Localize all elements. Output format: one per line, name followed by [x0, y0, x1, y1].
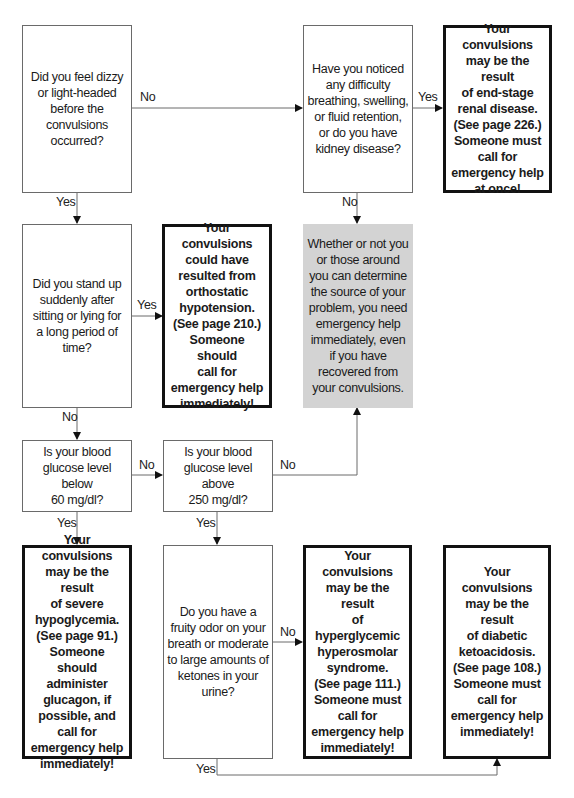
outcome-ketoacidosis-text: Your convulsions may be the result of di… [450, 564, 544, 740]
question-kidney-text: Have you noticed any difficulty breathin… [307, 61, 408, 157]
question-glucose-below: Is your blood glucose level below 60 mg/… [22, 440, 132, 512]
label-stand-yes: Yes [137, 298, 157, 312]
label-above-no: No [280, 458, 295, 472]
emergency-note-text: Whether or not you or those around you c… [308, 236, 409, 396]
question-kidney: Have you noticed any difficulty breathin… [303, 25, 413, 193]
question-glucose-above-text: Is your blood glucose level above 250 mg… [167, 444, 269, 508]
question-dizzy-text: Did you feel dizzy or light-headed befor… [31, 69, 124, 149]
label-above-yes: Yes [196, 516, 216, 530]
emergency-note: Whether or not you or those around you c… [303, 224, 413, 408]
label-dizzy-no: No [140, 90, 155, 104]
label-below-no: No [139, 458, 154, 472]
outcome-ketoacidosis: Your convulsions may be the result of di… [443, 545, 551, 759]
question-fruity-odor: Do you have a fruity odor on your breath… [163, 545, 273, 759]
label-below-yes: Yes [57, 516, 77, 530]
question-glucose-above: Is your blood glucose level above 250 mg… [163, 440, 273, 512]
outcome-renal-text: Your convulsions may be the result of en… [450, 21, 545, 197]
label-fruity-no: No [280, 625, 295, 639]
question-stand-up: Did you stand up suddenly after sitting … [22, 224, 132, 408]
question-glucose-below-text: Is your blood glucose level below 60 mg/… [26, 444, 128, 508]
label-kidney-no: No [342, 195, 357, 209]
label-dizzy-yes: Yes [56, 195, 76, 209]
label-kidney-yes: Yes [418, 90, 438, 104]
outcome-hyperosmolar-text: Your convulsions may be the result of hy… [310, 548, 405, 756]
label-fruity-yes: Yes [196, 762, 216, 776]
question-fruity-odor-text: Do you have a fruity odor on your breath… [167, 604, 268, 700]
outcome-orthostatic-text: Your convulsions could have resulted fro… [169, 220, 265, 412]
outcome-hyperosmolar: Your convulsions may be the result of hy… [303, 545, 412, 759]
label-stand-no: No [62, 410, 77, 424]
outcome-hypoglycemia: Your convulsions may be the result of se… [22, 545, 132, 759]
outcome-hypoglycemia-text: Your convulsions may be the result of se… [29, 532, 125, 772]
question-stand-up-text: Did you stand up suddenly after sitting … [32, 276, 121, 356]
outcome-orthostatic-hypotension: Your convulsions could have resulted fro… [162, 224, 272, 408]
outcome-renal-disease: Your convulsions may be the result of en… [443, 25, 552, 193]
question-dizzy: Did you feel dizzy or light-headed befor… [22, 25, 132, 193]
